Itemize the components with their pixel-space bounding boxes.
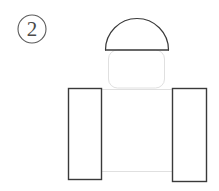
- figure-canvas: 2: [0, 0, 219, 191]
- line-drawing-svg: 2: [0, 0, 219, 191]
- left-upright-block-shape: [69, 89, 102, 180]
- neck-body-shape: [109, 50, 165, 88]
- right-upright-block-shape: [173, 89, 207, 182]
- step-number-badge-label: 2: [27, 17, 38, 41]
- dome-cap-shape: [106, 19, 169, 50]
